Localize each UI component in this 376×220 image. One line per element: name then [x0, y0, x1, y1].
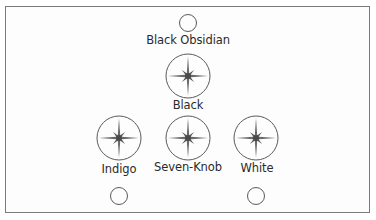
star-icon — [236, 118, 276, 158]
seven-knob-label: Seven-Knob — [154, 160, 222, 174]
star-icon — [168, 56, 208, 96]
star-icon — [168, 118, 208, 158]
white-star-node — [234, 116, 278, 160]
star-icon — [99, 118, 139, 158]
black-obsidian-circle — [180, 15, 197, 32]
seven-knob-star-node — [166, 116, 210, 160]
black-star-node — [166, 54, 210, 98]
black-label: Black — [173, 98, 204, 112]
white-label: White — [241, 161, 274, 175]
bottom-left-circle — [111, 188, 128, 205]
indigo-star-node — [97, 116, 141, 160]
bottom-right-circle — [248, 188, 265, 205]
indigo-label: Indigo — [102, 162, 137, 176]
black-obsidian-label: Black Obsidian — [146, 33, 230, 47]
